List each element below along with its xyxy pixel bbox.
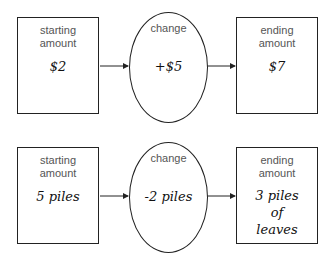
change-value-2: -2 piles — [130, 189, 207, 205]
starting-label-1b: amount — [18, 37, 98, 50]
ending-value-2a: 3 piles — [237, 188, 317, 204]
starting-label-2b: amount — [18, 167, 98, 180]
change-value-1: +$5 — [130, 59, 207, 75]
ending-value-2b: of — [237, 205, 317, 221]
ending-amount-box-2: ending amount 3 piles of leaves — [236, 147, 318, 244]
change-label-2: change — [130, 152, 207, 165]
ending-label-1a: ending — [237, 24, 317, 37]
change-label-1: change — [130, 22, 207, 35]
starting-value-2: 5 piles — [18, 189, 98, 205]
ending-label-1b: amount — [237, 37, 317, 50]
change-ellipse-1: change +$5 — [129, 12, 208, 123]
starting-label-2a: starting — [18, 154, 98, 167]
ending-amount-box-1: ending amount $7 — [236, 17, 318, 114]
change-ellipse-2: change -2 piles — [129, 142, 208, 253]
starting-label-1a: starting — [18, 24, 98, 37]
starting-amount-box-2: starting amount 5 piles — [17, 147, 99, 244]
starting-amount-box-1: starting amount $2 — [17, 17, 99, 114]
ending-value-1: $7 — [237, 59, 317, 75]
starting-value-1: $2 — [18, 59, 98, 75]
ending-label-2b: amount — [237, 167, 317, 180]
ending-label-2a: ending — [237, 154, 317, 167]
ending-value-2c: leaves — [237, 222, 317, 238]
